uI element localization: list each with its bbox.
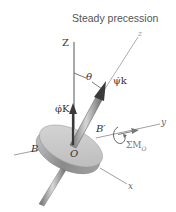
precession-rate-label: φ̇K — [55, 104, 69, 114]
moment-symbol: ΣM — [126, 140, 142, 150]
x-axis-line — [100, 168, 127, 184]
precession-arrow-head — [69, 103, 77, 114]
B-label: B — [31, 144, 38, 154]
theta-label: θ — [86, 72, 92, 82]
moment-subscript: O — [142, 145, 147, 152]
x-axis-label: x — [128, 182, 133, 191]
origin-label: O — [70, 149, 78, 159]
diagram-title: Steady precession — [72, 13, 158, 24]
Z-axis-label: Z — [62, 38, 69, 48]
y-axis-label: y — [161, 118, 166, 127]
spin-rate-label: ψ̇k — [113, 76, 127, 86]
gyroscope-diagram — [0, 0, 176, 212]
z-axis-line — [101, 37, 138, 95]
z-axis-label: z — [138, 30, 142, 38]
moment-label: ΣMO — [126, 141, 147, 152]
B-prime-label: B′ — [96, 124, 106, 134]
lower-shaft — [39, 168, 66, 206]
